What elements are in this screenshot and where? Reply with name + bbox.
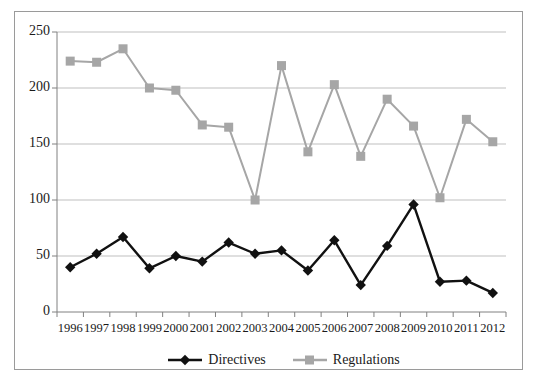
data-point-marker: [409, 122, 418, 131]
legend-swatch-diamond-icon: [167, 353, 203, 367]
data-point-marker: [65, 262, 75, 272]
data-point-marker: [488, 288, 498, 298]
y-axis-tick-label: 0: [16, 303, 50, 319]
data-point-marker: [461, 275, 471, 285]
data-point-marker: [303, 147, 312, 156]
data-point-marker: [171, 86, 180, 95]
data-point-marker: [92, 58, 101, 67]
series-line-regulations: [70, 49, 493, 200]
legend-item-regulations[interactable]: Regulations: [292, 352, 400, 368]
data-point-marker: [277, 61, 286, 70]
y-axis-tick-label: 150: [16, 135, 50, 151]
y-axis-tick-label: 50: [16, 247, 50, 263]
data-series-group: [65, 44, 498, 298]
chart-legend: DirectivesRegulations: [15, 352, 537, 368]
x-axis-tick-label: 2012: [476, 321, 510, 336]
data-point-marker: [330, 80, 339, 89]
data-point-marker: [171, 251, 181, 261]
chart-frame: 050100150200250 199619971998199920002001…: [14, 11, 523, 370]
data-point-marker: [66, 57, 75, 66]
data-point-marker: [145, 84, 154, 93]
data-point-marker: [224, 123, 233, 132]
data-point-marker: [462, 115, 471, 124]
y-axis-tick-label: 200: [16, 79, 50, 95]
chart-page: 050100150200250 199619971998199920002001…: [0, 0, 537, 384]
data-point-marker: [435, 193, 444, 202]
y-axis-tick-label: 100: [16, 191, 50, 207]
legend-label: Regulations: [333, 352, 400, 368]
data-point-marker: [119, 44, 128, 53]
legend-label: Directives: [208, 352, 266, 368]
data-point-marker: [383, 95, 392, 104]
data-point-marker: [198, 120, 207, 129]
data-point-marker: [251, 196, 260, 205]
data-point-marker: [356, 152, 365, 161]
legend-item-directives[interactable]: Directives: [167, 352, 266, 368]
data-point-marker: [435, 277, 445, 287]
line-chart-plot: [15, 12, 521, 368]
data-point-marker: [488, 137, 497, 146]
y-axis-tick-label: 250: [16, 23, 50, 39]
x-tick-marks-group: [57, 312, 506, 317]
legend-swatch-square-icon: [292, 353, 328, 367]
data-point-marker: [250, 249, 260, 259]
